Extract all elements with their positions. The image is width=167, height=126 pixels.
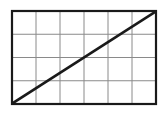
grid-diagonal-figure bbox=[0, 0, 167, 126]
figure-canvas bbox=[0, 0, 167, 126]
